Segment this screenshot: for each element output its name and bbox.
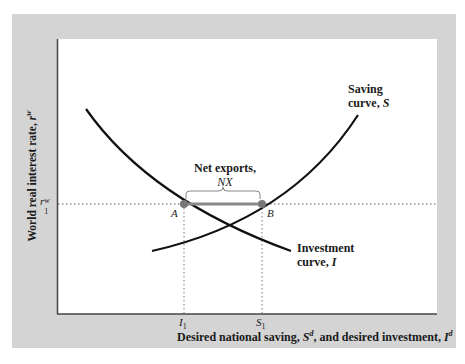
investment-curve [86, 109, 291, 251]
i1-tick-label: I1 [179, 316, 187, 331]
x-axis-label: Desired national saving, Sd, and desired… [177, 329, 453, 345]
point-b-label: B [267, 207, 274, 219]
s1-tick-label: S1 [256, 316, 266, 331]
net-exports-label: Net exports, NX [193, 161, 257, 189]
investment-curve-label: Investment curve, I [297, 241, 354, 269]
point-b-marker [258, 200, 266, 208]
point-a-label: A [171, 207, 178, 219]
saving-curve-label: Saving curve, S [348, 82, 389, 110]
r1-tick-label: rw1 [40, 195, 52, 207]
point-a-marker [180, 200, 188, 208]
y-axis-label: World real interest rate, rw [24, 110, 38, 241]
